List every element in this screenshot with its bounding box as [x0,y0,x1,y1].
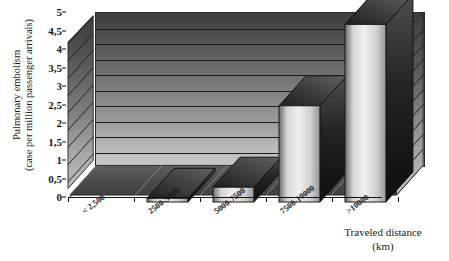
y-axis-tick-label: 1,5 [48,136,62,148]
y-axis-tick-mark [62,104,66,105]
y-axis-tick-mark [62,30,66,31]
y-axis-tick-labels: 00,511,522,533,544,55 [36,0,66,261]
bar-front-face [345,24,386,202]
chart-container: Pulmonary embolism (case per million pas… [0,0,449,261]
bar[interactable] [213,19,254,204]
bar[interactable] [279,19,320,204]
bars-layer [68,12,425,204]
y-axis-tick-label: 2,5 [48,99,62,111]
x-axis-tick-mark [68,197,69,202]
bar[interactable] [345,19,386,204]
bar[interactable] [147,19,188,204]
x-axis-title-line2: (km) [323,240,443,254]
y-axis-tick-mark [62,86,66,87]
y-axis-tick-mark [62,141,66,142]
y-axis-tick-mark [62,12,66,13]
y-axis-tick-mark [62,197,66,198]
y-axis-tick-mark [62,160,66,161]
x-axis-tick-mark [266,197,267,202]
bar-3d-faces [213,17,283,204]
y-axis-title-line1: Pulmonary embolism [11,50,23,140]
y-axis-tick-mark [62,49,66,50]
y-axis-tick-label: 0,5 [48,173,62,185]
y-axis-tick-label: 4,5 [48,25,62,37]
x-axis-title-line1: Traveled distance [323,226,443,240]
x-axis-tick-mark [332,197,333,202]
y-axis-tick-mark [62,123,66,124]
y-axis-tick-label: 3,5 [48,62,62,74]
bar[interactable] [81,19,122,204]
bar-3d-faces [345,17,415,204]
x-axis-tick-mark [134,197,135,202]
x-axis-tick-mark [398,197,399,202]
bar-3d-faces [279,17,349,204]
x-axis-tick-mark [200,197,201,202]
y-axis-tick-mark [62,178,66,179]
bar-3d-faces [147,17,217,204]
y-axis-title: Pulmonary embolism (case per million pas… [6,0,40,190]
plot-area [68,12,425,202]
y-axis-tick-mark [62,67,66,68]
bar-side-face [385,0,412,202]
y-axis-title-line2: (case per million passenger arrivals) [23,19,35,171]
x-axis-title: Traveled distance (km) [323,226,443,254]
